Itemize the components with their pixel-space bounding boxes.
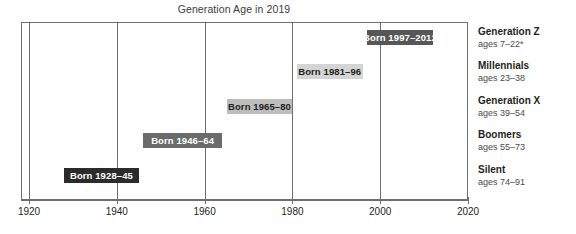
- legend-entry-generation-x: Generation Xages 39–54: [478, 95, 574, 119]
- bar-boomers: Born 1946–64: [143, 133, 222, 148]
- legend-name: Silent: [478, 164, 574, 176]
- x-tick-label-2000: 2000: [369, 206, 391, 217]
- x-tick-1980: [292, 197, 293, 204]
- bar-generation-x: Born 1965–80: [227, 99, 293, 114]
- x-tick-1940: [117, 197, 118, 204]
- legend-name: Millennials: [478, 60, 574, 72]
- gridline-1960: [205, 22, 206, 200]
- legend-entry-generation-z: Generation Zages 7–22*: [478, 26, 574, 50]
- x-axis-line: [21, 200, 468, 201]
- x-tick-label-1940: 1940: [106, 206, 128, 217]
- legend-ages: ages 39–54: [478, 107, 574, 119]
- legend-ages: ages 7–22*: [478, 38, 574, 50]
- x-tick-1920: [29, 197, 30, 204]
- x-tick-2020: [468, 197, 469, 204]
- x-tick-2000: [380, 197, 381, 204]
- bar-generation-z: Born 1997–2012: [367, 30, 433, 45]
- bar-millennials: Born 1981–96: [297, 64, 363, 79]
- x-tick-label-2020: 2020: [457, 206, 479, 217]
- chart-title: Generation Age in 2019: [0, 3, 468, 15]
- legend-ages: ages 74–91: [478, 176, 574, 188]
- generation-age-chart: Generation Age in 2019 19201940196019802…: [0, 0, 576, 234]
- legend-entry-boomers: Boomersages 55–73: [478, 129, 574, 153]
- legend-name: Generation Z: [478, 26, 574, 38]
- legend-ages: ages 55–73: [478, 141, 574, 153]
- legend-ages: ages 23–38: [478, 72, 574, 84]
- x-tick-1960: [205, 197, 206, 204]
- legend-name: Generation X: [478, 95, 574, 107]
- gridline-1980: [292, 22, 293, 200]
- gridline-2000: [380, 22, 381, 200]
- legend-name: Boomers: [478, 129, 574, 141]
- bar-silent: Born 1928–45: [64, 168, 139, 183]
- x-tick-label-1980: 1980: [281, 206, 303, 217]
- x-tick-label-1920: 1920: [18, 206, 40, 217]
- x-tick-label-1960: 1960: [193, 206, 215, 217]
- gridline-1920: [29, 22, 30, 200]
- legend-entry-silent: Silentages 74–91: [478, 164, 574, 188]
- legend-entry-millennials: Millennialsages 23–38: [478, 60, 574, 84]
